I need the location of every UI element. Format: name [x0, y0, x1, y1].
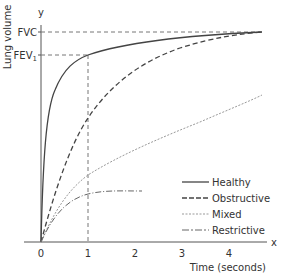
legend-item-obstructive: Obstructive [182, 193, 270, 204]
fev-label: FEV [14, 50, 33, 61]
legend-item-mixed: Mixed [182, 209, 242, 220]
y-axis-label: Lung volume [2, 5, 13, 70]
legend-label-mixed: Mixed [212, 209, 242, 220]
x-axis-label: Time (seconds) [189, 262, 266, 273]
x-tick-2: 2 [132, 248, 138, 259]
legend: Healthy Obstructive Mixed Restrictive [182, 177, 270, 236]
x-tick-3: 3 [179, 248, 185, 259]
legend-label-restrictive: Restrictive [212, 225, 265, 236]
x-axis-letter: x [271, 237, 277, 248]
y-axis-letter: y [38, 7, 44, 18]
x-tick-1: 1 [85, 248, 91, 259]
fev-subscript: 1 [33, 55, 37, 63]
spirometry-chart: Lung volume y x FVC FEV1 0 1 2 3 4 Time … [0, 0, 282, 274]
legend-label-healthy: Healthy [212, 177, 251, 188]
y-tick-fev1: FEV1 [14, 50, 37, 63]
legend-item-restrictive: Restrictive [182, 225, 265, 236]
y-tick-fvc: FVC [17, 27, 37, 38]
series-restrictive [41, 191, 142, 242]
x-tick-4: 4 [226, 248, 232, 259]
legend-label-obstructive: Obstructive [212, 193, 270, 204]
x-tick-0: 0 [38, 248, 44, 259]
legend-item-healthy: Healthy [182, 177, 251, 188]
